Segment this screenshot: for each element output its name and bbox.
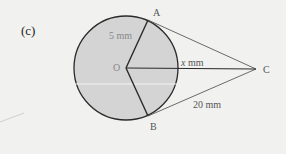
part-label: (c) [21, 24, 35, 37]
point-a-label: A [153, 8, 160, 18]
oc-unit: mm [188, 57, 204, 68]
point-o-label: O [113, 63, 120, 73]
oc-length-label: x mm [181, 58, 204, 68]
radius-label: 5 mm [109, 31, 132, 41]
point-c-label: C [263, 65, 270, 75]
oc-variable: x [181, 57, 185, 68]
scan-artifact-line [0, 113, 24, 122]
diagram-canvas: (c) 5 mm O A B C x mm 20 mm [0, 0, 286, 154]
geometry-figure [0, 0, 286, 154]
tangent-length-label: 20 mm [193, 100, 221, 110]
point-b-label: B [150, 122, 157, 132]
